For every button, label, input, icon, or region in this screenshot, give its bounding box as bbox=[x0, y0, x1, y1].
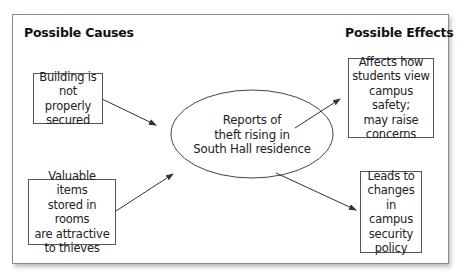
box-line: are attractive bbox=[32, 227, 112, 242]
cause-box-2: Valuable items stored in rooms are attra… bbox=[28, 179, 116, 245]
effect-box-2: Leads to changes in campus security poli… bbox=[360, 171, 422, 253]
cause-box-1: Building is not properly secured bbox=[33, 73, 103, 124]
box-line: policy bbox=[364, 241, 418, 256]
box-line: secured bbox=[37, 113, 99, 128]
arrow-cause-1 bbox=[102, 99, 156, 125]
arrow-effect-2 bbox=[276, 173, 356, 210]
center-line: theft rising in bbox=[172, 128, 332, 143]
box-line: changes bbox=[364, 183, 418, 198]
arrow-cause-2 bbox=[116, 174, 173, 211]
box-line: may raise bbox=[352, 113, 430, 128]
box-line: stored in rooms bbox=[32, 198, 112, 227]
box-line: concerns bbox=[352, 127, 430, 142]
center-line: Reports of bbox=[172, 113, 332, 128]
box-line: not properly bbox=[37, 84, 99, 113]
box-line: Leads to bbox=[364, 169, 418, 184]
box-line: students view bbox=[352, 69, 430, 84]
center-topic: Reports of theft rising in South Hall re… bbox=[172, 113, 332, 157]
box-line: Valuable items bbox=[32, 169, 112, 198]
box-line: security bbox=[364, 227, 418, 242]
box-line: campus safety; bbox=[352, 84, 430, 113]
box-line: Affects how bbox=[352, 55, 430, 70]
box-line: Building is bbox=[37, 70, 99, 85]
box-line: to thieves bbox=[32, 241, 112, 256]
center-line: South Hall residence bbox=[172, 142, 332, 157]
box-line: in campus bbox=[364, 198, 418, 227]
effect-box-1: Affects how students view campus safety;… bbox=[348, 58, 434, 138]
